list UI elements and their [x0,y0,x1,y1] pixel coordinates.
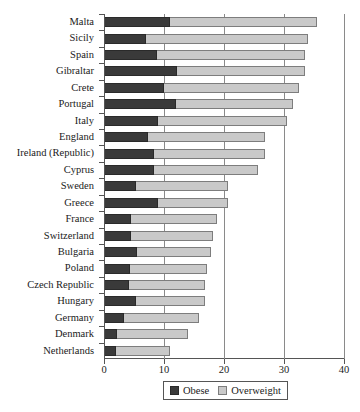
bar-segment-obese [105,198,158,208]
category-label: Gibraltar [0,63,94,79]
y-tick-mark [99,63,104,64]
category-label: Denmark [0,326,94,342]
bar-row: Portugal [0,96,360,112]
y-tick-mark [99,30,104,31]
y-tick-mark [99,326,104,327]
bar-row: Poland [0,260,360,276]
bar-row: Sicily [0,30,360,46]
stacked-bar [105,149,265,159]
x-tick-label: 30 [264,364,304,375]
y-tick-mark [99,129,104,130]
legend-item-overweight: Overweight [218,384,281,397]
bar-segment-obese [105,264,130,274]
stacked-bar [105,247,211,257]
y-tick-mark [99,293,104,294]
y-tick-mark [99,145,104,146]
y-tick-mark [99,244,104,245]
stacked-bar [105,116,287,126]
y-tick-mark [99,80,104,81]
bar-segment-overweight [158,198,228,208]
y-tick-mark [99,277,104,278]
category-label: Portugal [0,96,94,112]
stacked-bar [105,198,228,208]
bar-row: Bulgaria [0,244,360,260]
bar-row: Ireland (Republic) [0,145,360,161]
bar-rows: MaltaSicilySpainGibraltarCretePortugalIt… [0,14,360,359]
x-tick-label: 0 [84,364,124,375]
category-label: Crete [0,80,94,96]
category-label: Malta [0,14,94,30]
bar-segment-overweight [130,264,207,274]
y-tick-mark [99,14,104,15]
bar-row: Greece [0,195,360,211]
y-tick-mark [99,228,104,229]
bar-row: Malta [0,14,360,30]
bar-row: Switzerland [0,228,360,244]
bar-segment-overweight [158,116,287,126]
stacked-bar [105,83,299,93]
stacked-bar [105,66,305,76]
stacked-bar [105,17,317,27]
category-label: Italy [0,113,94,129]
y-tick-mark [99,96,104,97]
category-label: Sweden [0,178,94,194]
stacked-bar [105,165,258,175]
bar-row: France [0,211,360,227]
bar-segment-overweight [170,17,317,27]
bar-segment-obese [105,66,177,76]
category-label: Switzerland [0,228,94,244]
bar-row: Italy [0,113,360,129]
bar-segment-obese [105,329,117,339]
stacked-bar [105,231,213,241]
stacked-bar [105,214,217,224]
bar-row: Spain [0,47,360,63]
bar-segment-overweight [129,280,205,290]
bar-segment-obese [105,149,154,159]
bar-segment-overweight [146,34,307,44]
bar-row: Crete [0,80,360,96]
category-label: Sicily [0,30,94,46]
bar-segment-overweight [176,99,294,109]
bar-row: Netherlands [0,343,360,359]
bar-segment-obese [105,346,116,356]
bar-segment-obese [105,214,131,224]
category-label: Hungary [0,293,94,309]
bar-segment-obese [105,99,176,109]
bar-segment-obese [105,313,124,323]
y-tick-mark [99,162,104,163]
stacked-bar [105,181,228,191]
bar-segment-obese [105,231,131,241]
category-label: Poland [0,260,94,276]
legend-label-overweight: Overweight [231,384,281,397]
bar-segment-overweight [116,346,169,356]
stacked-bar [105,280,205,290]
y-tick-mark [99,47,104,48]
bar-row: Czech Republic [0,277,360,293]
bar-segment-obese [105,132,148,142]
legend-item-obese: Obese [170,384,209,397]
bar-segment-overweight [154,149,266,159]
bar-row: England [0,129,360,145]
chart-legend: Obese Overweight [163,381,288,400]
category-label: Cyprus [0,162,94,178]
bar-segment-obese [105,83,164,93]
y-tick-mark [99,260,104,261]
bar-segment-overweight [136,181,228,191]
bar-segment-overweight [154,165,258,175]
stacked-bar [105,132,265,142]
bar-segment-overweight [131,231,213,241]
bar-row: Hungary [0,293,360,309]
bar-segment-obese [105,50,157,60]
category-label: Ireland (Republic) [0,145,94,161]
y-tick-mark [99,195,104,196]
category-label: Czech Republic [0,277,94,293]
y-tick-mark [99,178,104,179]
y-tick-mark [99,310,104,311]
y-tick-mark [99,211,104,212]
category-label: Bulgaria [0,244,94,260]
y-tick-mark [99,343,104,344]
stacked-bar [105,346,170,356]
bar-segment-overweight [157,50,305,60]
bar-segment-obese [105,296,136,306]
stacked-bar [105,313,199,323]
